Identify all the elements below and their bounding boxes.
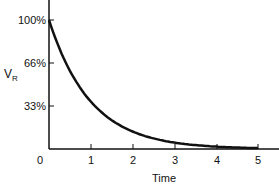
x-tick-label-3: 3 — [172, 154, 178, 166]
y-tick-label-33: 33% — [24, 100, 46, 112]
y-tick-label-100: 100% — [18, 14, 46, 26]
decay-curve — [49, 20, 258, 148]
x-tick-label-1: 1 — [88, 154, 94, 166]
x-tick-label-5: 5 — [255, 154, 261, 166]
y-axis-label: VR — [4, 68, 18, 85]
x-tick-label-4: 4 — [214, 154, 220, 166]
y-axis-label-sub: R — [12, 74, 18, 83]
x-tick-label-2: 2 — [130, 154, 136, 166]
y-tick-label-66: 66% — [24, 57, 46, 69]
x-axis-label: Time — [152, 172, 176, 184]
x-tick-label-0: 0 — [37, 154, 43, 166]
y-axis-label-main: V — [4, 67, 12, 81]
